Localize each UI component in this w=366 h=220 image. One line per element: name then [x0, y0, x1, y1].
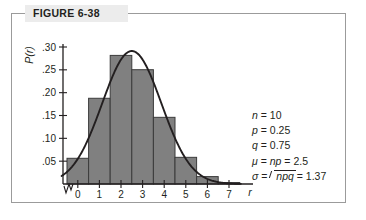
param-mu-value: 2.5 [293, 155, 308, 167]
x-axis-label: r [248, 186, 252, 198]
bar-3 [132, 70, 154, 184]
param-sigma-symbol: σ [252, 170, 258, 182]
bar-5 [175, 157, 197, 184]
y-tick-label-.25: .25 [42, 64, 56, 75]
param-p-equals: = [261, 124, 267, 136]
x-tick-label-7: 7 [226, 189, 232, 200]
param-sigma-equals-2: = [297, 170, 303, 182]
figure-container: FIGURE 6-38 .05.10.15.20.25.3001234567P(… [0, 0, 366, 220]
param-sigma: σ = npq = 1.37 [252, 169, 326, 184]
x-tick-label-4: 4 [161, 189, 167, 200]
x-tick-label-3: 3 [140, 189, 146, 200]
param-q-equals: = [261, 139, 267, 151]
bar-group [67, 55, 240, 184]
param-p: p = 0.25 [252, 123, 326, 138]
param-n-symbol: n [252, 109, 258, 121]
axis-break-icon [64, 184, 73, 193]
param-p-value: 0.25 [270, 124, 290, 136]
param-mu-expression: np [270, 155, 282, 167]
param-p-symbol: p [252, 124, 258, 136]
bar-4 [153, 117, 175, 184]
x-tick-label-6: 6 [205, 189, 211, 200]
param-q-value: 0.75 [270, 139, 290, 151]
param-sigma-equals-1: = [261, 170, 267, 182]
param-q: q = 0.75 [252, 138, 326, 153]
param-mu: μ = np = 2.5 [252, 154, 326, 169]
param-sigma-value: 1.37 [306, 170, 326, 182]
param-mu-symbol: μ [252, 155, 258, 167]
param-n: n = 10 [252, 108, 326, 123]
param-sigma-radicand: npq [276, 170, 294, 182]
x-tick-label-5: 5 [183, 189, 189, 200]
x-tick-label-1: 1 [97, 189, 103, 200]
x-tick-label-0: 0 [75, 189, 81, 200]
x-tick-label-2: 2 [118, 189, 124, 200]
y-axis-label: P(r) [23, 46, 35, 64]
param-q-symbol: q [252, 139, 258, 151]
param-n-value: 10 [270, 109, 282, 121]
y-tick-label-.05: .05 [42, 156, 56, 167]
y-tick-label-.20: .20 [42, 87, 56, 98]
param-mu-equals-2: = [284, 155, 290, 167]
y-tick-label-.15: .15 [42, 110, 56, 121]
sqrt-icon: npq [270, 169, 294, 184]
param-n-equals: = [261, 109, 267, 121]
param-mu-equals-1: = [261, 155, 267, 167]
y-tick-label-.10: .10 [42, 133, 56, 144]
parameter-list: n = 10 p = 0.25 q = 0.75 μ = np = 2.5 σ … [252, 108, 326, 184]
y-tick-label-.30: .30 [42, 42, 56, 53]
